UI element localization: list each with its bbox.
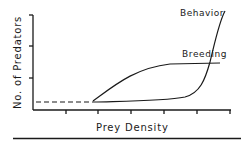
x-axis-label: Prey Density (96, 122, 169, 133)
chart: Breeding Behavior Prey Density No. of Pr… (0, 0, 241, 142)
breeding-curve (93, 63, 220, 101)
breeding-label: Breeding (182, 49, 227, 59)
axes (29, 15, 231, 114)
behavior-label: Behavior (180, 8, 224, 18)
y-axis-label: No. of Predators (12, 16, 23, 109)
